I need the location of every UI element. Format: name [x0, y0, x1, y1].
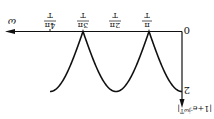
- tick-label-2pi-over-t: 2π T: [109, 11, 121, 30]
- magnitude-plot: 0 ω 2 |1+e-jωT| π T 2π T 3π T 4π: [0, 0, 214, 119]
- origin-label: 0: [184, 25, 190, 36]
- tick-label-4pi-over-t: 4π T: [44, 11, 56, 30]
- svg-text:3π: 3π: [78, 21, 88, 30]
- x-axis-label: ω: [8, 17, 16, 28]
- x-tick-labels: π T 2π T 3π T 4π T: [44, 11, 152, 30]
- svg-text:4π: 4π: [45, 21, 55, 30]
- magnitude-curve: [50, 32, 182, 92]
- svg-text:π: π: [144, 21, 149, 30]
- tick-label-3pi-over-t: 3π T: [77, 11, 89, 30]
- svg-text:T: T: [112, 11, 118, 20]
- svg-text:T: T: [80, 11, 86, 20]
- svg-text:T: T: [144, 11, 150, 20]
- y-tick-label: 2: [184, 85, 190, 96]
- x-axis-arrow-icon: [5, 29, 15, 34]
- svg-text:T: T: [47, 11, 53, 20]
- svg-text:2π: 2π: [110, 21, 120, 30]
- figure: 0 ω 2 |1+e-jωT| π T 2π T 3π T 4π: [0, 0, 214, 119]
- tick-label-pi-over-t: π T: [142, 11, 152, 30]
